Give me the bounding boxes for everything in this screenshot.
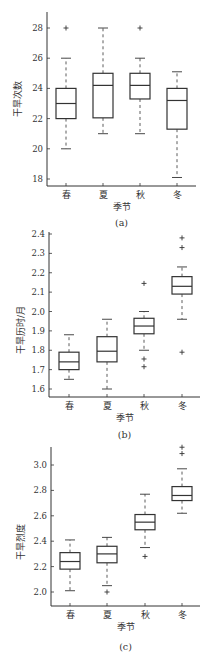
outlier-marker [142,356,147,361]
y-tick-label: 24 [32,83,43,93]
outlier-marker [105,590,110,595]
panel-caption: (b) [118,429,132,440]
y-tick-label: 2.6 [33,511,47,521]
boxplot-figure: 182022242628干旱次数春夏秋冬季节(a)1.61.71.81.92.0… [0,0,211,672]
box-4 [172,445,192,514]
x-tick-label: 冬 [178,400,187,411]
box-1 [60,540,80,591]
x-tick-label: 冬 [173,189,182,200]
outlier-marker [180,451,185,456]
x-axis-title: 季节 [117,621,135,632]
y-axis-title: 干旱次数 [12,81,23,117]
x-tick-label: 夏 [103,401,112,411]
box-2 [93,28,113,134]
iqr-box [59,352,79,369]
box-3 [135,494,155,559]
y-tick-label: 1.7 [31,365,45,375]
y-tick-label: 2.1 [31,287,45,297]
x-axis-title: 季节 [116,412,134,423]
y-tick-label: 1.9 [31,326,45,336]
y-tick-label: 18 [32,174,43,184]
iqr-box [97,337,117,362]
outlier-marker [142,281,147,286]
box-1 [59,335,79,380]
iqr-box [97,546,117,563]
y-tick-label: 3.0 [33,460,47,470]
box-3 [130,26,150,134]
outlier-marker [180,445,185,450]
iqr-box [172,277,192,294]
outlier-marker [180,235,185,240]
y-tick-label: 2.3 [31,248,45,258]
y-tick-label: 20 [32,144,43,154]
y-tick-label: 2.8 [33,485,47,495]
y-tick-label: 26 [32,53,43,63]
y-tick-label: 1.6 [31,384,45,394]
x-tick-label: 春 [66,609,75,620]
box-3 [134,281,154,369]
x-tick-label: 秋 [141,609,150,620]
box-4 [172,235,192,354]
iqr-box [93,73,113,118]
panel-caption: (c) [119,641,132,652]
y-tick-label: 2.2 [33,562,47,572]
x-tick-label: 春 [62,189,71,200]
outlier-marker [180,350,185,355]
box-2 [97,319,117,389]
outlier-marker [138,26,143,31]
x-tick-label: 春 [65,400,74,411]
x-axis-title: 季节 [113,201,131,212]
iqr-box [172,487,192,501]
chart-panel-3: 2.02.22.42.62.83.0干旱烈度春夏秋冬季节(c) [15,445,200,652]
y-tick-label: 2.4 [33,536,47,546]
y-axis-title: 干旱历时/月 [15,306,26,354]
y-tick-label: 2.2 [31,268,45,278]
y-axis-title: 干旱烈度 [15,524,26,560]
outlier-marker [180,245,185,250]
x-tick-label: 秋 [140,400,149,411]
box-2 [97,537,117,594]
box-1 [56,26,76,149]
y-tick-label: 2.0 [31,307,45,317]
box-4 [167,72,187,178]
figure: 182022242628干旱次数春夏秋冬季节(a)1.61.71.81.92.0… [0,0,211,672]
y-tick-label: 28 [32,23,43,33]
chart-panel-1: 182022242628干旱次数春夏秋冬季节(a) [12,12,196,228]
panel-caption: (a) [115,217,128,228]
x-tick-label: 秋 [136,189,145,200]
y-tick-label: 2.0 [33,587,47,597]
x-tick-label: 冬 [178,609,187,620]
iqr-box [167,88,187,129]
chart-panel-2: 1.61.71.81.92.02.12.22.32.4干旱历时/月春夏秋冬季节(… [15,229,200,440]
outlier-marker [64,26,69,31]
iqr-box [60,553,80,570]
y-tick-label: 2.4 [31,229,45,239]
y-tick-label: 1.8 [31,345,45,355]
outlier-marker [142,364,147,369]
x-tick-label: 夏 [103,610,112,620]
outlier-marker [143,554,148,559]
y-tick-label: 22 [32,114,43,124]
iqr-box [130,73,150,99]
x-tick-label: 夏 [99,190,108,200]
